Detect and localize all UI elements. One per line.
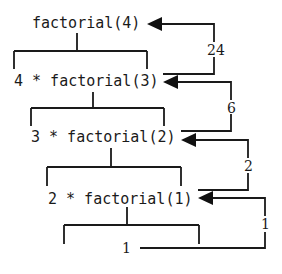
return-arrow-24: 24 [147,17,225,74]
call-node-2-times-factorial-1: 2 * factorial(1) [48,190,193,208]
expansion-bracket-1 [14,33,147,69]
return-value-label: 6 [227,100,236,116]
expansion-bracket-3 [47,148,181,186]
call-node-factorial-4: factorial(4) [32,14,140,32]
expansion-bracket-2 [31,92,164,126]
expansion-bracket-4 [64,207,199,244]
factorial-recursion-diagram: factorial(4) 4 * factorial(3) 3 * factor… [0,0,282,274]
return-arrow-6: 6 [163,75,236,131]
return-value-label: 1 [261,216,270,232]
return-value-label: 24 [207,42,225,58]
arrowhead-icon [163,75,178,89]
arrowhead-icon [198,191,213,205]
arrowhead-icon [147,17,162,31]
base-case-value: 1 [122,240,131,256]
return-value-label: 2 [244,158,253,174]
call-node-4-times-factorial-3: 4 * factorial(3) [14,72,159,90]
call-node-3-times-factorial-2: 3 * factorial(2) [31,128,176,146]
return-arrow-2: 2 [181,133,253,190]
arrowhead-icon [181,133,196,147]
